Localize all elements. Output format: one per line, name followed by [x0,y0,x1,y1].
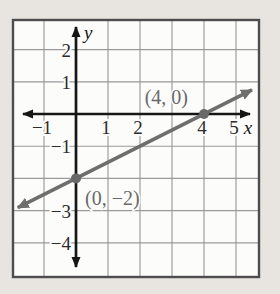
x-tick-label: 1 [101,117,111,138]
y-tick-label: 1 [62,72,72,93]
y-tick-label: −3 [51,201,71,222]
x-tick-label: −1 [32,117,52,138]
y-tick-label: −1 [51,136,71,157]
y-tick-label: −4 [51,233,72,254]
point-coordinate-label: (0, −2) [85,187,140,210]
x-tick-label: 5 [229,117,239,138]
point-coordinate-label: (4, 0) [145,86,188,109]
worksheet-page: (4, 0)(0, −2)−1124521−1−3−4xy [0,0,280,294]
x-tick-label: 4 [197,117,207,138]
plotted-point [71,173,81,183]
coordinate-plane-graph: (4, 0)(0, −2)−1124521−1−3−4xy [0,0,280,294]
y-axis-label: y [82,22,93,43]
x-tick-label: 2 [133,117,143,138]
y-tick-label: 2 [62,40,72,61]
x-axis-label: x [243,117,253,138]
